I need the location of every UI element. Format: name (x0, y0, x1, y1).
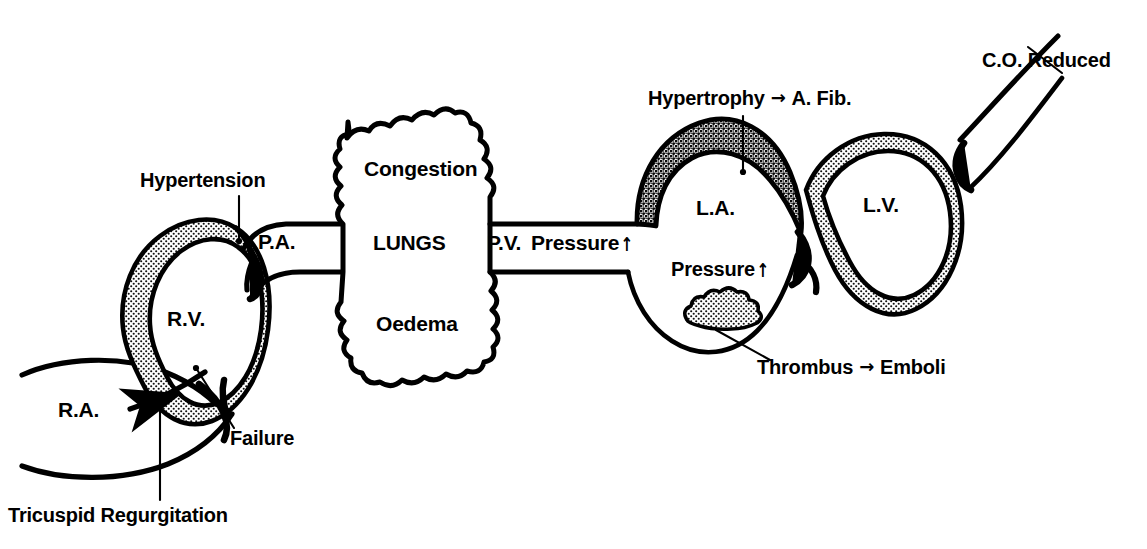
annotation-la-pressure: Pressure↑ (671, 259, 771, 279)
hypertrophy-text: Hypertrophy (648, 87, 765, 109)
label-pulmonary-artery: P.A. (258, 231, 295, 252)
label-right-ventricle: R.V. (167, 308, 205, 329)
annotation-cardiac-output: C.O. Reduced (982, 50, 1111, 70)
la-pressure-text: Pressure (671, 258, 755, 280)
label-lung-oedema: Oedema (376, 313, 458, 334)
thrombus-text: Thrombus (757, 356, 853, 378)
annotation-pv-pressure: Pressure↑ (531, 232, 635, 253)
pv-pressure-text: Pressure (531, 231, 619, 254)
label-lung-congestion: Congestion (364, 158, 478, 179)
left-ventricle (806, 134, 962, 314)
pv-pressure-up-arrow-icon: ↑ (621, 235, 634, 254)
annotation-la-thrombus: Thrombus→Emboli (757, 357, 946, 377)
annotation-pa-hypertension: Hypertension (140, 170, 265, 190)
left-atrium-thrombus (685, 288, 762, 329)
aortic-valve (956, 143, 971, 190)
label-pulmonary-vein: P.V. (487, 232, 521, 253)
thrombus-arrow-icon: → (853, 358, 880, 376)
annotation-tricuspid-regurgitation: Tricuspid Regurgitation (8, 505, 228, 525)
annotation-rv-failure: Failure (230, 428, 294, 448)
annotation-la-hypertrophy: Hypertrophy→A. Fib. (648, 88, 851, 108)
label-right-atrium: R.A. (58, 399, 99, 420)
mitral-valve (792, 232, 816, 292)
label-left-atrium: L.A. (696, 197, 735, 218)
label-lungs: LUNGS (373, 232, 446, 253)
a-fib-text: A. Fib. (792, 87, 852, 109)
la-pressure-up-arrow-icon: ↑ (757, 261, 770, 280)
diagram-canvas: Hypertension P.A. Congestion LUNGS Oedem… (0, 0, 1147, 549)
cardiac-diagram-svg (0, 0, 1147, 549)
emboli-text: Emboli (880, 356, 945, 378)
label-left-ventricle: L.V. (863, 194, 899, 215)
hypertrophy-arrow-icon: → (765, 89, 792, 107)
